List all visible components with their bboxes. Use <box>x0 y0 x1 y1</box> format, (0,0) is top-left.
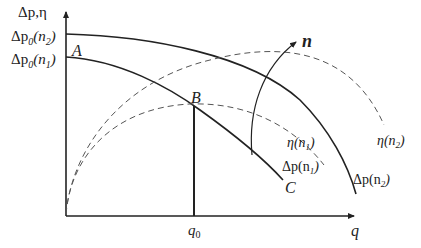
dp-n1-label: Δp(n1) <box>282 159 319 176</box>
dp-n2-label: Δp(n2) <box>353 172 390 189</box>
eta-n2-label: η(n2) <box>377 133 405 150</box>
pump-curve-diagram: Δp,η Δp0(n2) Δp0(n1) A B C n η(n1) η(n2)… <box>0 0 421 248</box>
point-a-label: A <box>71 42 82 59</box>
y-axis-label: Δp,η <box>18 4 47 20</box>
dp-n1-curve <box>66 57 283 180</box>
point-b-label: B <box>191 89 201 106</box>
point-c-label: C <box>285 179 296 196</box>
eta-n1-label: η(n1) <box>287 135 315 152</box>
speed-arrow-label: n <box>302 31 312 51</box>
eta-n2-curve <box>66 52 384 214</box>
x-axis-label: q <box>351 222 359 240</box>
dp0-n2-label: Δp0(n2) <box>11 28 56 47</box>
q0-label: q0 <box>188 222 201 240</box>
dp0-n1-label: Δp0(n1) <box>11 51 56 70</box>
